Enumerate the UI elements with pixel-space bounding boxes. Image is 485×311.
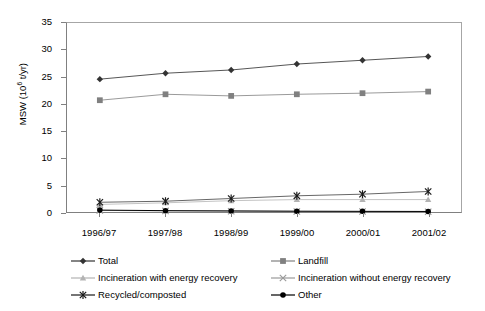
diamond-icon [70, 255, 96, 267]
series-line [100, 92, 428, 101]
legend-item-square[interactable]: Landfill [270, 255, 470, 267]
series-0 [97, 53, 432, 82]
x-tick-mark [429, 213, 430, 217]
legend-item-diamond[interactable]: Total [70, 255, 270, 267]
legend-label: Incineration with energy recovery [98, 272, 237, 284]
legend-label: Landfill [298, 255, 328, 267]
x-tick-mark [231, 213, 232, 217]
y-axis-title-exponent: 6 [16, 82, 23, 86]
chart-legend: TotalLandfillIncineration with energy re… [70, 252, 470, 303]
data-point-diamond [294, 61, 300, 67]
cross-icon [270, 272, 296, 284]
y-axis-title-suffix: t/yr) [17, 63, 28, 82]
data-point-square [294, 91, 300, 97]
plot-area [66, 22, 462, 213]
data-point-diamond [228, 67, 234, 73]
legend-label: Other [298, 289, 322, 301]
asterisk-icon [70, 289, 96, 301]
circle-icon [270, 289, 296, 301]
data-point-square [360, 90, 366, 96]
data-point-square [97, 97, 103, 103]
series-line [100, 200, 428, 205]
legend-item-circle[interactable]: Other [270, 289, 470, 301]
square-icon [270, 255, 296, 267]
data-point-square [280, 258, 286, 264]
x-tick-mark [99, 213, 100, 217]
data-point-square [425, 89, 431, 95]
legend-item-cross[interactable]: Incineration without energy recovery [270, 272, 470, 284]
chart-container: 05101520253035 MSW (106 t/yr) 1996/97199… [0, 0, 485, 311]
legend-label: Total [98, 255, 118, 267]
y-axis-title: MSW (106 t/yr) [16, 24, 28, 164]
data-point-diamond [97, 76, 103, 82]
legend-item-asterisk[interactable]: Recycled/composted [70, 289, 270, 301]
data-point-diamond [162, 70, 168, 76]
x-tick-mark [165, 213, 166, 217]
y-tick-label: 5 [0, 181, 52, 191]
legend-label: Incineration without energy recovery [298, 272, 451, 284]
x-tick-mark [363, 213, 364, 217]
data-point-diamond [359, 57, 365, 63]
series-line [100, 56, 428, 79]
data-point-diamond [425, 53, 431, 59]
legend-label: Recycled/composted [98, 289, 186, 301]
data-point-circle [280, 292, 286, 298]
series-1 [97, 89, 431, 103]
x-axis: 1996/971997/981998/991999/002000/012001/… [0, 213, 485, 243]
x-tick-label: 2001/02 [389, 227, 469, 238]
y-axis-title-prefix: MSW (10 [17, 86, 28, 126]
x-tick-mark [297, 213, 298, 217]
legend-item-triangle[interactable]: Incineration with energy recovery [70, 272, 270, 284]
series-line [100, 191, 428, 202]
data-point-square [228, 93, 234, 99]
data-point-square [163, 91, 169, 97]
y-axis: 05101520253035 [0, 0, 66, 311]
series-canvas [67, 23, 461, 212]
data-point-diamond [80, 257, 86, 263]
triangle-icon [70, 272, 96, 284]
